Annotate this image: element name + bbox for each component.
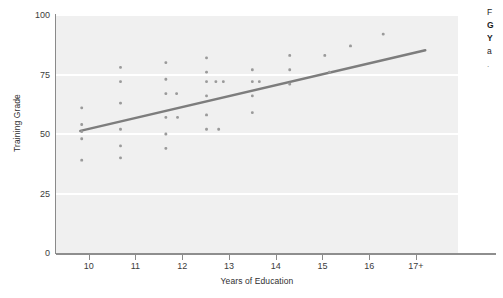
- y-axis-line: [55, 14, 56, 254]
- data-point: [119, 80, 122, 83]
- data-points: [80, 33, 384, 162]
- y-tick-label-100: 100: [6, 10, 50, 20]
- x-tick-mark-12: [182, 255, 183, 260]
- data-point: [164, 78, 167, 81]
- data-point: [288, 83, 291, 86]
- caption-line: G: [487, 19, 503, 32]
- data-point: [119, 102, 122, 105]
- trend-line: [80, 50, 425, 131]
- x-tick-mark-15: [322, 255, 323, 260]
- data-point: [382, 33, 385, 36]
- caption-line: F: [487, 6, 503, 19]
- regression-line: [80, 50, 425, 131]
- data-point: [217, 128, 220, 131]
- x-tick-mark-10: [89, 255, 90, 260]
- data-point: [119, 156, 122, 159]
- x-tick-mark-13: [229, 255, 230, 260]
- data-point: [80, 106, 83, 109]
- data-point: [80, 123, 83, 126]
- caption-line: a: [487, 45, 503, 58]
- x-tick-mark-14: [276, 255, 277, 260]
- data-point: [80, 137, 83, 140]
- data-point: [119, 145, 122, 148]
- x-tick-label-17+: 17+: [408, 261, 423, 271]
- caption-line: Y: [487, 32, 503, 45]
- data-point: [328, 71, 331, 74]
- data-point: [251, 80, 254, 83]
- figure-root: 0255075100 Training Grade 10111213141516…: [0, 0, 503, 298]
- data-point: [205, 71, 208, 74]
- data-point: [251, 111, 254, 114]
- x-axis-title: Years of Education: [56, 276, 458, 286]
- x-tick-label-11: 11: [131, 261, 140, 271]
- x-tick-mark-11: [135, 255, 136, 260]
- data-point: [80, 159, 83, 162]
- data-point: [288, 68, 291, 71]
- x-tick-mark-17+: [416, 255, 417, 260]
- data-point: [288, 54, 291, 57]
- data-point: [175, 92, 178, 95]
- plot-svg: [56, 15, 458, 253]
- data-point: [164, 61, 167, 64]
- y-tick-label-25: 25: [6, 189, 50, 199]
- plot-area: [56, 15, 458, 253]
- data-point: [164, 92, 167, 95]
- data-point: [119, 66, 122, 69]
- data-point: [164, 133, 167, 136]
- data-point: [80, 130, 83, 133]
- data-point: [164, 147, 167, 150]
- scatter-chart: 0255075100 Training Grade 10111213141516…: [0, 0, 470, 298]
- x-tick-label-12: 12: [177, 261, 187, 271]
- data-point: [164, 116, 167, 119]
- x-tick-label-15: 15: [317, 261, 327, 271]
- data-point: [176, 116, 179, 119]
- data-point: [119, 128, 122, 131]
- data-point: [205, 56, 208, 59]
- x-tick-label-14: 14: [271, 261, 281, 271]
- x-tick-label-13: 13: [224, 261, 234, 271]
- caption-bullet: .: [487, 58, 503, 71]
- data-point: [205, 114, 208, 117]
- x-tick-label-16: 16: [364, 261, 374, 271]
- data-point: [222, 80, 225, 83]
- data-point: [251, 68, 254, 71]
- data-point: [205, 128, 208, 131]
- y-axis-title: Training Grade: [12, 78, 22, 168]
- data-point: [205, 80, 208, 83]
- caption-text-clipped: FGYa.: [487, 6, 503, 86]
- data-point: [349, 45, 352, 48]
- data-point: [323, 54, 326, 57]
- x-tick-label-10: 10: [84, 261, 94, 271]
- data-point: [258, 80, 261, 83]
- data-point: [205, 95, 208, 98]
- x-tick-mark-16: [369, 255, 370, 260]
- data-point: [251, 95, 254, 98]
- data-point: [214, 80, 217, 83]
- y-tick-label-0: 0: [6, 248, 50, 258]
- y-axis-ticks: 0255075100: [0, 0, 50, 298]
